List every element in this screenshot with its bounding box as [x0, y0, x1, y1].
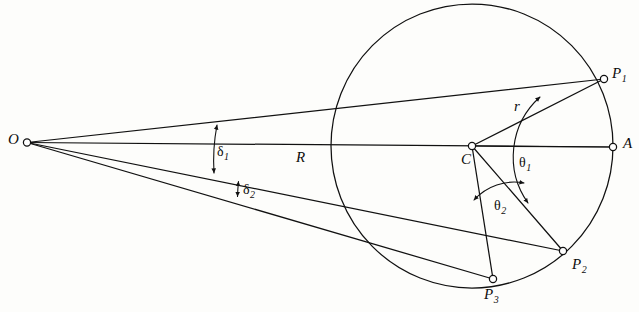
- label-point-C: C: [461, 152, 471, 167]
- label-angle-delta1: δ1: [217, 145, 229, 162]
- label-segment-R: R: [296, 150, 305, 165]
- label-point-P3: P3: [484, 287, 499, 305]
- radius-C-to-P1: [472, 79, 604, 146]
- point-marker-C: [468, 142, 475, 149]
- ray-O-to-P3: [27, 143, 493, 280]
- angle-arc-delta2: [238, 182, 239, 197]
- point-marker-P2: [559, 247, 566, 254]
- radius-C-to-A: [472, 146, 613, 147]
- label-point-O: O: [8, 132, 19, 147]
- label-point-P2: P2: [572, 257, 587, 275]
- figure-canvas: [0, 0, 639, 312]
- point-marker-A: [609, 143, 616, 150]
- label-angle-theta2: θ2: [494, 199, 506, 216]
- label-angle-delta2: δ2: [243, 183, 255, 200]
- label-segment-r: r: [514, 99, 520, 114]
- point-marker-O: [23, 139, 30, 146]
- geometry-figure: O C A P1 P2 P3 r R δ1 δ2 θ1 θ2: [0, 0, 639, 312]
- point-marker-P3: [489, 275, 496, 282]
- label-point-A: A: [623, 136, 632, 151]
- point-marker-P1: [600, 75, 607, 82]
- label-angle-theta1: θ1: [519, 156, 531, 173]
- label-point-P1: P1: [612, 66, 627, 84]
